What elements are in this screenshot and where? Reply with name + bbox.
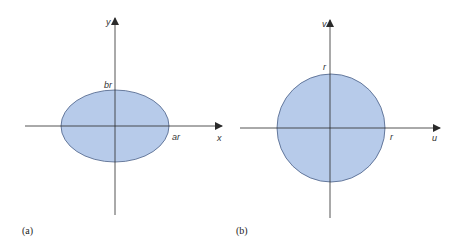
ar-intercept-label: ar xyxy=(172,132,181,142)
figure: y x br ar (a) v u r r (b) xyxy=(0,0,458,248)
v-axis-label: v xyxy=(322,19,327,29)
r-horizontal-intercept-label: r xyxy=(390,132,394,142)
br-intercept-label: br xyxy=(104,80,113,90)
panel-b: v u r r (b) xyxy=(236,19,440,237)
y-axis-label: y xyxy=(105,17,111,27)
r-vertical-intercept-label: r xyxy=(323,62,327,72)
caption-a: (a) xyxy=(22,225,33,237)
caption-b: (b) xyxy=(236,225,248,237)
x-axis-label: x xyxy=(216,133,222,143)
diagram-canvas: y x br ar (a) v u r r (b) xyxy=(0,0,458,248)
u-axis-label: u xyxy=(432,133,437,143)
panel-a: y x br ar (a) xyxy=(22,17,222,237)
